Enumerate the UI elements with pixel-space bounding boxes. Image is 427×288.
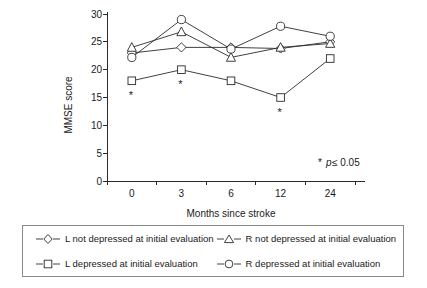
circle-marker-icon xyxy=(216,258,242,270)
significance-asterisk: * xyxy=(129,89,134,101)
p-value-rest: ≤ 0.05 xyxy=(332,157,360,168)
x-tick-label: 3 xyxy=(179,188,185,199)
significance-asterisk: * xyxy=(277,106,282,118)
data-point-marker xyxy=(227,77,235,85)
y-axis-tick-labels: 30 25 20 15 10 5 0 xyxy=(91,9,103,187)
legend: L not depressed at initial evaluation R … xyxy=(22,225,404,277)
data-series xyxy=(128,55,334,102)
legend-label: L depressed at initial evaluation xyxy=(65,259,198,269)
x-tick-label: 6 xyxy=(228,188,234,199)
figure-container: 30 25 20 15 10 5 0 MMSE score *** 036122… xyxy=(0,0,427,288)
data-point-marker xyxy=(326,32,334,40)
data-point-marker xyxy=(127,43,136,52)
y-tick-label: 25 xyxy=(91,36,103,47)
x-tick-label: 12 xyxy=(275,188,287,199)
data-point-marker xyxy=(277,22,285,30)
legend-label: L not depressed at initial evaluation xyxy=(65,234,214,244)
x-tick-label: 0 xyxy=(129,188,135,199)
data-point-marker xyxy=(128,77,136,85)
y-tick-label: 10 xyxy=(91,120,103,131)
x-tick-label: 24 xyxy=(325,188,337,199)
significance-asterisk: * xyxy=(178,78,183,90)
data-point-marker xyxy=(177,15,185,23)
y-tick-label: 30 xyxy=(91,9,103,20)
y-tick-label: 20 xyxy=(91,64,103,75)
x-axis-tick-labels: 0361224 xyxy=(129,188,336,199)
data-point-marker xyxy=(177,43,186,52)
y-axis-title: MMSE score xyxy=(63,76,74,134)
p-value-symbol: p xyxy=(325,157,332,168)
series-layer xyxy=(127,15,335,101)
data-point-marker xyxy=(227,45,235,53)
legend-item-l-depressed[interactable]: L depressed at initial evaluation xyxy=(23,258,214,270)
p-value-star: * xyxy=(318,157,322,168)
data-point-marker xyxy=(277,94,285,102)
data-point-marker xyxy=(177,27,186,36)
legend-label: R not depressed at initial evaluation xyxy=(246,234,397,244)
legend-item-r-depressed[interactable]: R depressed at initial evaluation xyxy=(214,258,403,270)
plot-area: 30 25 20 15 10 5 0 MMSE score *** 036122… xyxy=(0,0,427,218)
y-tick-label: 15 xyxy=(91,92,103,103)
data-point-marker xyxy=(326,55,334,63)
y-tick-label: 0 xyxy=(96,176,102,187)
annotation-layer: *** xyxy=(129,78,283,118)
legend-item-r-not-depressed[interactable]: R not depressed at initial evaluation xyxy=(214,233,403,245)
square-marker-icon xyxy=(35,258,61,270)
data-point-marker xyxy=(178,66,186,74)
legend-label: R depressed at initial evaluation xyxy=(246,259,381,269)
x-axis-title: Months since stroke xyxy=(187,208,276,218)
y-tick-label: 5 xyxy=(96,148,102,159)
triangle-marker-icon xyxy=(216,233,242,245)
p-value-footnote: * p ≤ 0.05 xyxy=(318,157,360,168)
data-point-marker xyxy=(128,53,136,61)
mmse-line-chart: 30 25 20 15 10 5 0 MMSE score *** 036122… xyxy=(0,0,427,218)
legend-item-l-not-depressed[interactable]: L not depressed at initial evaluation xyxy=(23,233,214,245)
diamond-marker-icon xyxy=(35,233,61,245)
